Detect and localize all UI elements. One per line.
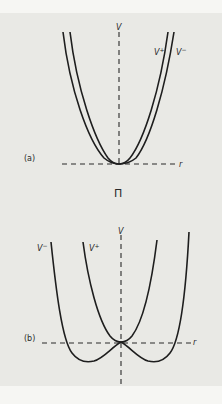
curve-label-v-minus-b: V− (37, 242, 48, 253)
curve-label-v-plus-a: V+ (154, 46, 165, 57)
r-axis-label-a: r (179, 160, 183, 169)
potential-diagram: V r (a) V+ V− Π V r (b) V− V+ (0, 0, 222, 404)
pi-symbol: Π (114, 187, 122, 200)
curve-v-plus-b (83, 240, 157, 342)
panel-label-a: (a) (24, 154, 35, 163)
v-axis-label-b: V (118, 227, 124, 236)
curve-label-v-minus-a: V− (176, 46, 187, 57)
panel-b: V r (b) V− V+ (24, 227, 197, 386)
curve-label-v-plus-b: V+ (89, 242, 100, 253)
v-axis-label-a: V (116, 23, 122, 32)
r-axis-label-b: r (193, 338, 197, 347)
panel-label-b: (b) (24, 334, 35, 343)
panel-a: V r (a) V+ V− (24, 23, 187, 169)
